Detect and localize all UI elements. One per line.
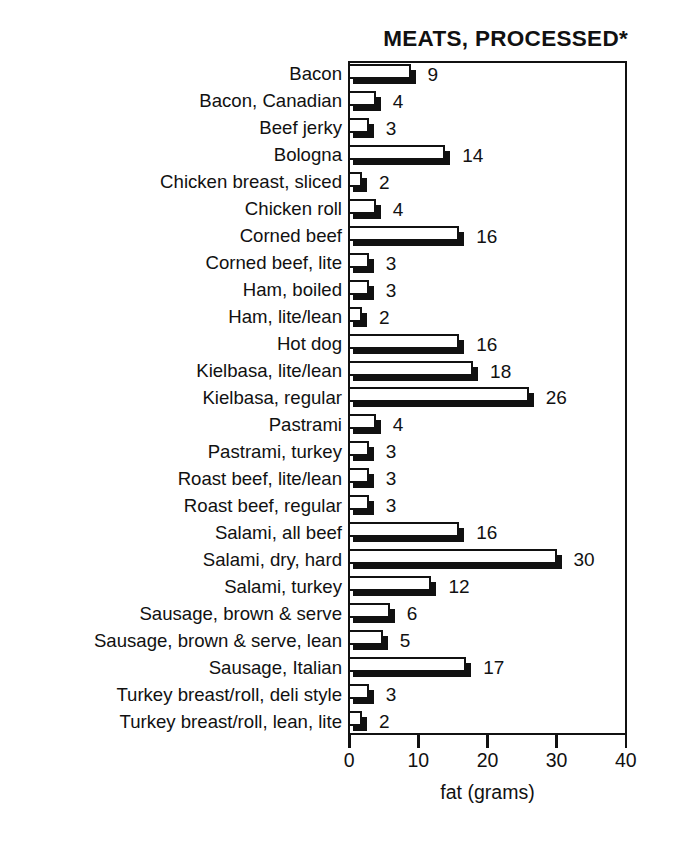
bar-face: [348, 64, 411, 79]
bar-face: [348, 657, 466, 672]
bar-face: [348, 414, 376, 429]
bar: [348, 145, 450, 166]
bar-row: Salami, turkey12: [0, 573, 680, 601]
bar-face: [348, 630, 383, 645]
bar-category-label: Corned beef, lite: [206, 252, 342, 274]
bar-category-label: Sausage, brown & serve, lean: [94, 630, 342, 652]
bar: [348, 684, 374, 705]
x-axis-tick: [486, 735, 489, 748]
x-axis-tick-label: 10: [408, 749, 430, 772]
bar-face: [348, 468, 369, 483]
bar: [348, 414, 381, 435]
bar-category-label: Sausage, Italian: [209, 657, 342, 679]
bar-value-label: 3: [386, 684, 397, 705]
bar: [348, 657, 471, 678]
bar-row: Salami, all beef16: [0, 519, 680, 547]
bar-row: Sausage, Italian17: [0, 654, 680, 682]
bar: [348, 280, 374, 301]
bar-face: [348, 118, 369, 133]
bar-value-label: 4: [393, 414, 404, 435]
bar-row: Turkey breast/roll, deli style3: [0, 681, 680, 709]
bar-face: [348, 280, 369, 295]
bar: [348, 468, 374, 489]
bar-category-label: Turkey breast/roll, deli style: [116, 684, 342, 706]
bar-face: [348, 91, 376, 106]
bar-face: [348, 307, 362, 322]
bar-value-label: 16: [476, 226, 497, 247]
bar-row: Roast beef, regular3: [0, 492, 680, 520]
bar-row: Ham, lite/lean2: [0, 304, 680, 332]
bar-row: Corned beef, lite3: [0, 250, 680, 278]
bar-face: [348, 387, 529, 402]
bar-face: [348, 334, 459, 349]
bar-value-label: 26: [546, 387, 567, 408]
bar-category-label: Roast beef, regular: [184, 495, 342, 517]
bar-value-label: 2: [379, 172, 390, 193]
bar-face: [348, 253, 369, 268]
bar: [348, 307, 367, 328]
bar-category-label: Salami, all beef: [215, 522, 342, 544]
x-axis-tick-label: 0: [344, 749, 355, 772]
bar-category-label: Turkey breast/roll, lean, lite: [119, 711, 342, 733]
bar-value-label: 14: [462, 145, 483, 166]
bar: [348, 361, 478, 382]
bar-value-label: 5: [400, 630, 411, 651]
bar: [348, 253, 374, 274]
bar-face: [348, 361, 473, 376]
bar-row: Pastrami, turkey3: [0, 438, 680, 466]
x-axis-tick: [417, 735, 420, 748]
bar-value-label: 2: [379, 307, 390, 328]
bar-category-label: Roast beef, lite/lean: [178, 468, 342, 490]
bar-value-label: 2: [379, 711, 390, 732]
bar-face: [348, 226, 459, 241]
bar-category-label: Salami, dry, hard: [203, 549, 342, 571]
bar-face: [348, 711, 362, 726]
bar-row: Kielbasa, lite/lean18: [0, 358, 680, 386]
bar: [348, 495, 374, 516]
bar: [348, 630, 388, 651]
bar-row: Pastrami4: [0, 411, 680, 439]
bar: [348, 603, 395, 624]
x-axis-tick: [555, 735, 558, 748]
bar-category-label: Ham, lite/lean: [228, 306, 342, 328]
bar-category-label: Ham, boiled: [243, 279, 342, 301]
bar-category-label: Pastrami: [269, 414, 342, 436]
bar-category-label: Beef jerky: [259, 117, 342, 139]
x-axis-tick-label: 40: [615, 749, 637, 772]
chart-page: MEATS, PROCESSED* Bacon9Bacon, Canadian4…: [0, 0, 680, 848]
bar-face: [348, 441, 369, 456]
bar-category-label: Sausage, brown & serve: [139, 603, 342, 625]
x-axis-tick-label: 20: [477, 749, 499, 772]
bar-row: Bacon, Canadian4: [0, 88, 680, 116]
bar-face: [348, 199, 376, 214]
bar-category-label: Corned beef: [240, 225, 342, 247]
bar-value-label: 18: [490, 361, 511, 382]
bar-category-label: Bacon, Canadian: [199, 90, 342, 112]
bar-value-label: 9: [428, 64, 439, 85]
bar: [348, 64, 416, 85]
bar-face: [348, 145, 445, 160]
bar-value-label: 4: [393, 199, 404, 220]
bar-value-label: 3: [386, 468, 397, 489]
bar-value-label: 30: [574, 549, 595, 570]
bar-row: Kielbasa, regular26: [0, 385, 680, 413]
bar: [348, 91, 381, 112]
bar: [348, 387, 534, 408]
bar-row: Chicken breast, sliced2: [0, 169, 680, 197]
bar-row: Corned beef16: [0, 223, 680, 251]
bar-row: Chicken roll4: [0, 196, 680, 224]
bar: [348, 549, 562, 570]
bar-face: [348, 495, 369, 510]
bar-category-label: Salami, turkey: [224, 576, 342, 598]
bar-face: [348, 603, 390, 618]
bar-row: Salami, dry, hard30: [0, 546, 680, 574]
bar: [348, 576, 436, 597]
bar: [348, 441, 374, 462]
bar-value-label: 3: [386, 253, 397, 274]
bar-value-label: 3: [386, 280, 397, 301]
bar-row: Turkey breast/roll, lean, lite2: [0, 708, 680, 736]
bar-value-label: 17: [483, 657, 504, 678]
bar-value-label: 12: [448, 576, 469, 597]
bar-face: [348, 684, 369, 699]
bar: [348, 226, 464, 247]
